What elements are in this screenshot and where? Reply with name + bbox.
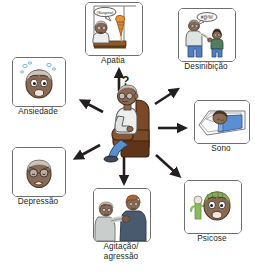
anxiety-icon (13, 58, 65, 106)
panel-agitacao[interactable]: Agitação/ agressão (93, 188, 149, 240)
sleep-icon (195, 101, 249, 143)
worried-face (26, 70, 52, 98)
apathy-icon: (Suspiro) (86, 3, 142, 55)
caption-psicose: Psicose (184, 234, 240, 244)
agitation-aggression-icon (94, 189, 150, 241)
center-figure-elderly-in-armchair (96, 78, 168, 163)
panel-frame: (Suspiro) (85, 2, 143, 56)
panel-frame (93, 188, 151, 242)
disinhibition-icon: #@%! (179, 9, 235, 61)
panel-sono[interactable]: Sono (194, 100, 248, 142)
sleeping-head (213, 111, 227, 124)
panel-desinibicao[interactable]: #@%! (178, 8, 234, 60)
hallucinating-face (204, 192, 230, 220)
caption-sono: Sono (194, 144, 248, 154)
caption-agitacao: Agitação/ agressão (93, 242, 149, 262)
question-mark-label: ? (122, 75, 129, 87)
panel-frame (184, 180, 242, 234)
panel-ansiedade[interactable]: Ansiedade (12, 57, 64, 105)
bpsd-radial-diagram: ? (Suspiro) (0, 0, 255, 272)
svg-text:(Suspiro): (Suspiro) (97, 10, 115, 15)
svg-text:#@%!: #@%! (201, 15, 214, 20)
sad-face (27, 160, 51, 188)
caption-depressao: Depressão (12, 197, 64, 207)
panel-psicose[interactable]: Psicose (184, 180, 240, 232)
panel-depressao[interactable]: Depressão (12, 147, 64, 195)
panel-frame: #@%! (178, 8, 236, 62)
panel-frame (12, 147, 66, 197)
panel-apatia[interactable]: (Suspiro) (85, 2, 141, 54)
caption-apatia: Apatia (85, 56, 141, 66)
panel-frame (12, 57, 66, 107)
psychosis-icon (185, 181, 241, 233)
caption-desinibicao: Desinibição (178, 62, 234, 72)
caption-ansiedade: Ansiedade (12, 107, 64, 117)
depression-icon (13, 148, 65, 196)
panel-frame (194, 100, 250, 144)
